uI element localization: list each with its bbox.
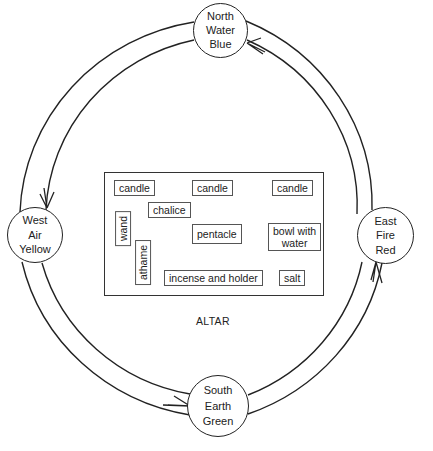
west-element: Air: [28, 230, 41, 241]
arrow-into-south: [163, 396, 190, 406]
altar-box: candle candle candle chalice wand pentac…: [104, 172, 324, 296]
altar-item-salt: salt: [279, 270, 305, 286]
bowl-line-1: bowl with: [273, 225, 316, 237]
east-color: Red: [375, 245, 395, 256]
altar-item-chalice: chalice: [148, 202, 191, 218]
quarter-south: South Earth Green: [187, 375, 249, 437]
south-color: Green: [203, 416, 234, 427]
altar-item-candle-center: candle: [192, 180, 233, 196]
south-element: Earth: [205, 401, 231, 412]
altar-item-bowl-with-water: bowl with water: [268, 223, 321, 251]
west-direction: West: [23, 215, 48, 226]
bowl-line-2: water: [273, 237, 316, 249]
altar-item-candle-right: candle: [272, 180, 313, 196]
north-direction: North: [207, 11, 234, 22]
west-color: Yellow: [19, 244, 50, 255]
east-element: Fire: [376, 230, 395, 241]
arrow-into-north: [247, 38, 265, 54]
altar-item-candle-left: candle: [114, 180, 155, 196]
east-direction: East: [374, 216, 396, 227]
south-direction: South: [204, 385, 233, 396]
quarter-west: West Air Yellow: [7, 207, 63, 263]
quarter-east: East Fire Red: [357, 207, 414, 264]
altar-item-athame: athame: [135, 240, 151, 285]
altar-item-wand: wand: [115, 211, 131, 246]
quarter-north: North Water Blue: [193, 3, 248, 58]
altar-label: ALTAR: [196, 315, 230, 327]
north-element: Water: [206, 25, 235, 36]
north-color: Blue: [209, 39, 231, 50]
altar-item-incense-and-holder: incense and holder: [164, 270, 263, 286]
altar-item-pentacle: pentacle: [192, 224, 242, 244]
